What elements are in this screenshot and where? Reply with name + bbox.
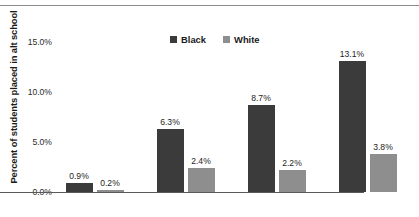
y-tick-label-2: 10.0% <box>6 87 52 97</box>
bar-total-black <box>339 61 366 192</box>
bar-high-white <box>279 170 306 192</box>
y-tick-label-1: 5.0% <box>6 137 52 147</box>
alt-school-placement-bar-chart: Percent of students placed in alt school… <box>0 0 419 217</box>
bar-elementary-white <box>97 190 124 192</box>
x-axis-baseline-stub <box>44 192 55 193</box>
value-label-middle-white: 2.4% <box>183 156 220 166</box>
value-label-total-white: 3.8% <box>365 142 402 152</box>
top-divider-rule <box>0 5 419 6</box>
value-label-total-black: 13.1% <box>334 49 371 59</box>
value-label-high-white: 2.2% <box>274 158 311 168</box>
y-tick-label-3: 15.0% <box>6 37 52 47</box>
y-axis-tick-labels: 0.0% 5.0% 10.0% 15.0% <box>0 0 52 217</box>
x-axis-category-label-elementary: Elementary <box>44 216 146 217</box>
x-axis-category-label-high: High <box>226 216 328 217</box>
bar-total-white <box>370 154 397 192</box>
value-label-middle-black: 6.3% <box>152 117 189 127</box>
plot-area: 0.9%0.2%Elementary6.3%2.4%Middle8.7%2.2%… <box>55 20 419 192</box>
value-label-high-black: 8.7% <box>243 93 280 103</box>
x-axis-category-label-middle: Middle <box>135 216 237 217</box>
value-label-elementary-white: 0.2% <box>92 178 129 188</box>
bar-high-black <box>248 105 275 192</box>
bar-middle-white <box>188 168 215 192</box>
bar-elementary-black <box>66 183 93 192</box>
x-axis-category-label-total: Total <box>317 216 419 217</box>
bar-middle-black <box>157 129 184 192</box>
